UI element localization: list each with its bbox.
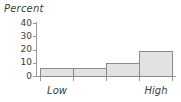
y-tick-label: 40 — [0, 19, 32, 28]
y-tick-mark — [33, 36, 37, 37]
x-axis-label: Low — [40, 85, 74, 96]
x-tick-mark — [172, 77, 173, 81]
bar — [40, 68, 74, 77]
x-tick-mark — [40, 77, 41, 81]
x-tick-mark — [139, 77, 140, 81]
y-tick-label-text: 40 — [0, 19, 32, 28]
y-tick-label-text: 20 — [0, 45, 32, 54]
y-tick-label-text: 10 — [0, 58, 32, 67]
x-tick-mark — [73, 77, 74, 81]
y-tick-mark — [33, 63, 37, 64]
bar — [106, 63, 140, 77]
y-tick-label: 30 — [0, 32, 32, 41]
y-tick-label: 20 — [0, 45, 32, 54]
y-tick-label: 0 — [0, 72, 32, 81]
x-tick-mark — [106, 77, 107, 81]
plot-area: 010203040 LowHigh — [0, 0, 181, 102]
y-tick-mark — [33, 76, 37, 77]
y-tick-label-text: 0 — [0, 72, 32, 81]
bar-chart: Percent 010203040 LowHigh — [0, 0, 181, 102]
y-tick-mark — [33, 50, 37, 51]
x-axis-label: High — [139, 85, 173, 96]
y-tick-mark — [33, 23, 37, 24]
bar — [73, 68, 107, 77]
bar — [139, 51, 173, 77]
y-tick-label-text: 30 — [0, 32, 32, 41]
y-tick-label: 10 — [0, 58, 32, 67]
